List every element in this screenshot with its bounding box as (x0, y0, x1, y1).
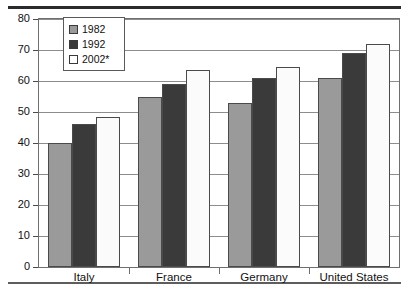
bar-france-1992 (162, 84, 186, 267)
bar-italy-1992 (72, 124, 96, 267)
y-tick-label-30: 30 (4, 168, 30, 179)
bar-italy-1982 (48, 143, 72, 267)
bar-germany-2002 (276, 67, 300, 267)
swatch-2002-icon (69, 55, 78, 64)
y-tick-mark-30 (33, 174, 38, 175)
x-category-label-france: France (129, 270, 219, 284)
y-tick-mark-40 (33, 143, 38, 144)
y-tick-mark-80 (33, 19, 38, 20)
x-tick-mark-1 (129, 268, 130, 274)
legend-label-2002: 2002* (82, 54, 109, 65)
bar-united-states-1992 (342, 53, 366, 267)
y-tick-mark-10 (33, 236, 38, 237)
y-tick-label-0: 0 (4, 261, 30, 272)
y-tick-mark-70 (33, 50, 38, 51)
y-tick-label-10: 10 (4, 230, 30, 241)
bar-france-1982 (138, 97, 162, 268)
y-tick-label-60: 60 (4, 75, 30, 86)
y-tick-label-70: 70 (4, 44, 30, 55)
y-tick-label-50: 50 (4, 106, 30, 117)
legend-label-1982: 1982 (82, 24, 105, 35)
y-tick-label-80: 80 (4, 13, 30, 24)
bar-chart-figure: 1982 1992 2002* 01020304050607080ItalyFr… (0, 0, 409, 290)
bar-germany-1982 (228, 103, 252, 267)
chart-legend: 1982 1992 2002* (63, 17, 125, 71)
x-tick-mark-2 (219, 268, 220, 274)
legend-item-2002: 2002* (69, 52, 119, 66)
bar-united-states-2002 (366, 44, 390, 267)
y-tick-mark-50 (33, 112, 38, 113)
y-tick-mark-60 (33, 81, 38, 82)
bar-united-states-1982 (318, 78, 342, 267)
x-category-label-germany: Germany (219, 270, 309, 284)
legend-item-1992: 1992 (69, 37, 119, 51)
legend-label-1992: 1992 (82, 39, 105, 50)
y-tick-mark-20 (33, 205, 38, 206)
top-divider-rule (8, 6, 401, 9)
swatch-1982-icon (69, 25, 78, 34)
y-tick-label-20: 20 (4, 199, 30, 210)
x-category-label-united-states: United States (309, 270, 399, 284)
bar-italy-2002 (96, 117, 120, 267)
swatch-1992-icon (69, 40, 78, 49)
x-category-label-italy: Italy (39, 270, 129, 284)
x-tick-mark-3 (309, 268, 310, 274)
y-tick-label-40: 40 (4, 137, 30, 148)
bar-germany-1992 (252, 78, 276, 267)
y-tick-mark-0 (33, 267, 38, 268)
legend-item-1982: 1982 (69, 22, 119, 36)
bar-france-2002 (186, 70, 210, 267)
